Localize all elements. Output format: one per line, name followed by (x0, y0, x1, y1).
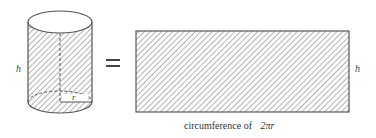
cylinder-net-diagram: r h h circumference of 2πr (0, 0, 376, 138)
rectangle-width-caption: circumference of 2πr (184, 120, 275, 131)
cylinder: r h (16, 11, 92, 113)
rectangle-surface (136, 31, 349, 112)
unrolled-rectangle: h circumference of 2πr (136, 31, 360, 131)
equals-sign (106, 59, 120, 67)
caption-formula: 2πr (261, 120, 275, 131)
cylinder-top (28, 11, 92, 33)
cylinder-height-label: h (16, 63, 21, 74)
rectangle-height-label: h (355, 63, 360, 74)
radius-label: r (72, 92, 76, 102)
caption-prefix: circumference of (184, 120, 253, 131)
